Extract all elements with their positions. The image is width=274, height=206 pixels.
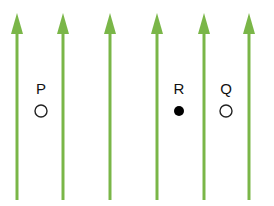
arrowhead-icon <box>11 13 23 34</box>
arrowhead-icon <box>151 13 163 34</box>
filled-dot-icon <box>174 106 184 116</box>
arrowhead-icon <box>243 13 255 34</box>
point-label: R <box>174 80 185 97</box>
arrowhead-icon <box>104 13 116 34</box>
point-label: P <box>36 80 46 97</box>
field-line-arrow <box>198 13 210 200</box>
hollow-circle-icon <box>220 105 232 117</box>
field-line-arrow <box>151 13 163 200</box>
point-p: P <box>35 80 47 117</box>
hollow-circle-icon <box>35 105 47 117</box>
field-line-arrow <box>57 13 69 200</box>
field-line-arrow <box>243 13 255 200</box>
field-line-arrow <box>11 13 23 200</box>
arrowhead-icon <box>198 13 210 34</box>
field-line-arrow <box>104 13 116 200</box>
point-r: R <box>174 80 185 116</box>
field-lines-canvas: PRQ <box>0 0 274 206</box>
field-diagram: PRQ <box>0 0 274 206</box>
point-label: Q <box>220 80 232 97</box>
point-q: Q <box>220 80 232 117</box>
arrowhead-icon <box>57 13 69 34</box>
